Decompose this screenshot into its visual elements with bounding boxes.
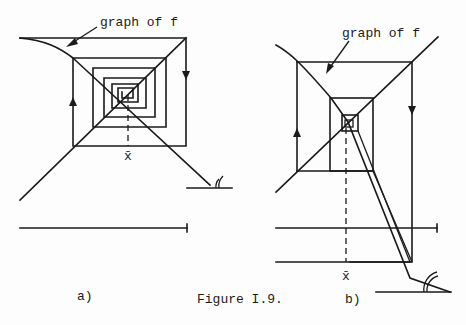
panel-b-down-arrow-icon [408, 106, 416, 115]
panel-b-graph-of-f [276, 45, 450, 292]
panel-b-xbar-label: x̄ [342, 269, 350, 284]
panel-b-annotation: graph of f [342, 26, 420, 41]
panel-a-angle-arc-outer [219, 176, 223, 188]
panel-b-cobweb [297, 62, 412, 262]
panel-b-angle-arc-outer [424, 272, 437, 292]
figure-caption: Figure I.9. [197, 292, 283, 307]
panel-a-diagonal [20, 38, 186, 200]
panel-a-label: a) [77, 289, 93, 304]
panel-a-xbar-label: x̄ [124, 149, 132, 164]
figure-canvas: x̄ graph of f a) [0, 0, 466, 325]
panel-b-up-arrow-icon [293, 128, 301, 137]
panel-a-annotation-arrow-icon [66, 38, 78, 47]
figure-i9: x̄ graph of f a) [0, 0, 466, 325]
panel-b-angle-arc-inner [427, 276, 438, 292]
panel-b: x̄ graph of f b) [276, 26, 451, 307]
panel-a-annotation: graph of f [100, 15, 178, 30]
panel-a-up-arrow-icon [69, 97, 77, 106]
panel-a-cobweb [20, 38, 186, 146]
panel-a-graph-of-f [20, 38, 210, 185]
panel-b-label: b) [345, 292, 361, 307]
panel-a: x̄ graph of f a) [20, 15, 232, 304]
panel-a-down-arrow-icon [182, 71, 190, 80]
panel-b-annotation-arrow-icon [326, 63, 334, 74]
